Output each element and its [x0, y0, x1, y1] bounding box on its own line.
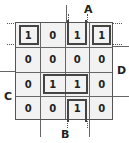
cell-r1-c2: 0: [65, 48, 90, 73]
cell-r0-c1: 0: [41, 23, 66, 48]
cell-r3-c2: 1: [65, 97, 90, 122]
cell-r3-c1: 0: [41, 97, 66, 122]
cell-r2-c0: 0: [16, 72, 41, 97]
kmap-grid: 1 0 1 1 0 0 0 0 0 1 1 0 0 0 1 0: [15, 22, 113, 120]
variable-label-b: B: [61, 128, 69, 141]
right-dotted-top: [113, 23, 122, 24]
cell-r2-c3: 0: [90, 72, 115, 97]
cell-r3-c0: 0: [16, 97, 41, 122]
cell-r3-c3: 0: [90, 97, 115, 122]
b-boundary-line-right: [89, 120, 90, 137]
cell-r1-c3: 0: [90, 48, 115, 73]
variable-label-c: C: [4, 90, 12, 103]
variable-label-a: A: [84, 3, 93, 16]
variable-label-d: D: [117, 64, 126, 77]
cell-r0-c3: 1: [90, 23, 115, 48]
cell-r0-c0: 1: [16, 23, 41, 48]
cell-r0-c2: 1: [65, 23, 90, 48]
cell-r1-c0: 0: [16, 48, 41, 73]
cell-r2-c1: 1: [41, 72, 66, 97]
c-boundary-line: [0, 71, 15, 72]
d-boundary-line-bottom: [113, 96, 129, 97]
right-dotted-bottom: [113, 44, 122, 45]
b-boundary-line-left: [40, 120, 41, 137]
d-boundary-line-top: [113, 46, 129, 47]
cell-r1-c1: 0: [41, 48, 66, 73]
cell-r2-c2: 1: [65, 72, 90, 97]
